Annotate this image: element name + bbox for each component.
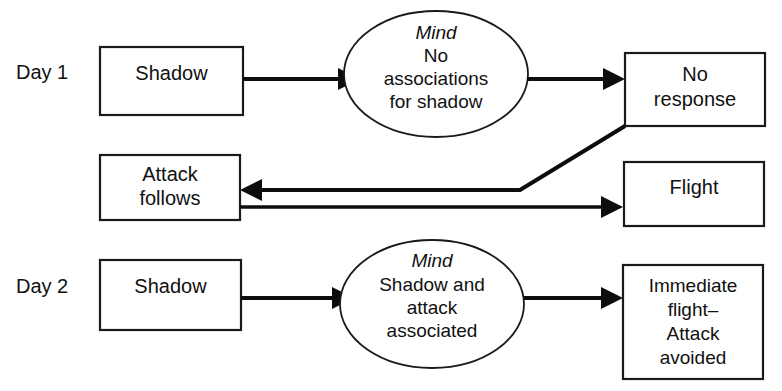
node-day1-outcome-line1: No bbox=[682, 63, 708, 85]
node-day2-mind-line1: Shadow and bbox=[379, 274, 485, 295]
row-label-day2: Day 2 bbox=[16, 275, 68, 297]
node-day1-outcome-line2: response bbox=[654, 88, 736, 110]
node-day1-mind-italic-header: Mind bbox=[415, 22, 458, 43]
edge-day1-mind-to-outcome bbox=[527, 68, 625, 90]
node-day2-outcome-line1: Immediate bbox=[649, 275, 738, 296]
node-day1-stimulus[interactable]: Shadow bbox=[100, 47, 243, 115]
edge-day1-stimulus-to-mind bbox=[243, 68, 360, 90]
node-attack-follows-line2: follows bbox=[139, 187, 200, 209]
node-day1-mind-line3: for shadow bbox=[390, 91, 483, 112]
node-attack-follows-line1: Attack bbox=[142, 163, 199, 185]
node-day1-stimulus-label: Shadow bbox=[135, 62, 208, 84]
node-day2-mind-line3: associated bbox=[387, 320, 478, 341]
node-day2-mind-line2: attack bbox=[407, 297, 458, 318]
node-day2-mind-italic-header: Mind bbox=[411, 250, 454, 271]
node-day2-stimulus[interactable]: Shadow bbox=[100, 260, 241, 330]
edge-day2-stimulus-to-mind bbox=[241, 287, 354, 309]
diagram-root: Day 1 Day 2 Shadow Mind No associations … bbox=[0, 0, 782, 391]
node-day1-mind-line2: associations bbox=[384, 68, 489, 89]
edge-no-response-to-attack-follows-arrowhead bbox=[240, 179, 262, 201]
node-day1-mind-line1: No bbox=[424, 45, 448, 66]
node-day2-stimulus-label: Shadow bbox=[134, 275, 207, 297]
row-label-day1: Day 1 bbox=[16, 61, 68, 83]
edge-day2-mind-to-outcome-arrowhead bbox=[601, 287, 623, 309]
edge-attack-follows-to-flight bbox=[240, 196, 623, 218]
node-day2-mind[interactable]: Mind Shadow and attack associated bbox=[340, 240, 524, 368]
node-day2-outcome-line2: flight– bbox=[668, 299, 719, 320]
node-flight-label: Flight bbox=[670, 176, 719, 198]
node-day2-outcome[interactable]: Immediate flight– Attack avoided bbox=[623, 265, 763, 379]
edge-day1-mind-to-outcome-arrowhead bbox=[603, 68, 625, 90]
node-day2-outcome-line4: avoided bbox=[660, 347, 727, 368]
node-flight[interactable]: Flight bbox=[624, 162, 764, 226]
node-day2-outcome-line3: Attack bbox=[667, 323, 720, 344]
flow-diagram-canvas: Day 1 Day 2 Shadow Mind No associations … bbox=[0, 0, 782, 391]
edge-day2-mind-to-outcome bbox=[524, 287, 623, 309]
node-day1-mind[interactable]: Mind No associations for shadow bbox=[344, 11, 528, 137]
edge-attack-follows-to-flight-arrowhead bbox=[601, 196, 623, 218]
node-attack-follows[interactable]: Attack follows bbox=[100, 155, 240, 220]
node-day1-outcome[interactable]: No response bbox=[625, 53, 765, 126]
